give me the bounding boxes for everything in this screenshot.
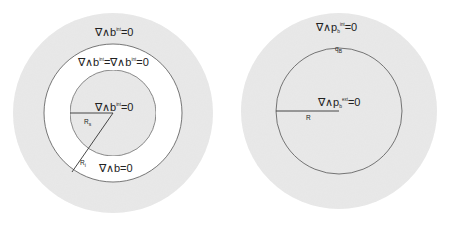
left-ring-region-label: ∇∧bint=∇∧bint=0	[77, 56, 149, 68]
right-radius-label: R	[306, 114, 311, 121]
diagram-canvas: ∇∧bint=0 ∇∧bint=∇∧bint=0 ∇∧bint=0 ∇∧b=0 …	[0, 0, 453, 225]
right-inner-region-label: ∇∧pbext=0	[317, 96, 360, 109]
right-outer-region-label: ∇∧pbint=0	[315, 21, 357, 34]
left-outer-region-label: ∇∧bint=0	[94, 26, 133, 38]
right-figure: ∇∧pbint=0 qB ∇∧pbext=0 R	[241, 13, 437, 209]
left-figure: ∇∧bint=0 ∇∧bint=∇∧bint=0 ∇∧bint=0 ∇∧b=0 …	[13, 13, 213, 213]
left-inner-region-label: ∇∧bint=0	[94, 101, 133, 113]
left-ring-bottom-label: ∇∧b=0	[98, 162, 133, 174]
